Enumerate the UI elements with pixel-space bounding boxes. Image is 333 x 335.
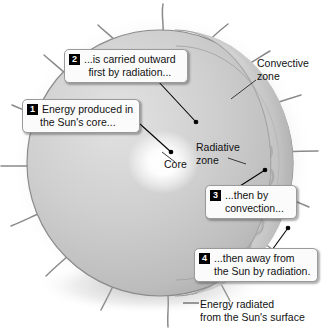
- convective-zone-label: Convective zone: [257, 57, 309, 83]
- convective-zone-line-2: zone: [257, 70, 309, 83]
- callout-line-2: convection...: [225, 202, 284, 215]
- callout-badge-1: 1: [27, 104, 38, 115]
- sun-core: [127, 130, 199, 194]
- callout-line-1: ...then away from: [214, 252, 310, 265]
- callout-badge-3: 3: [210, 190, 221, 201]
- energy-produced-callout[interactable]: 1 Energy produced in the Sun's core...: [22, 99, 140, 133]
- bottom-caption-line-2: from the Sun's surface: [200, 311, 305, 324]
- callout-text-3: ...then by convection...: [225, 189, 284, 215]
- callout-badge-4: 4: [199, 253, 210, 264]
- callout-text-2: ...is carried outward first by radiation…: [84, 53, 176, 79]
- callout-line-2: the Sun's core...: [40, 116, 133, 129]
- callout-text-4: ...then away from the Sun by radiation.: [214, 252, 310, 278]
- callout-line-2: the Sun by radiation.: [214, 265, 310, 278]
- away-by-radiation-callout[interactable]: 4 ...then away from the Sun by radiation…: [194, 248, 318, 282]
- convective-zone-line-1: Convective: [257, 57, 309, 70]
- radiative-zone-line-1: Radiative: [196, 141, 240, 154]
- callout-line-1: Energy produced in: [42, 103, 133, 116]
- callout-line-1: ...then by: [225, 189, 284, 202]
- callout-text-1: Energy produced in the Sun's core...: [42, 103, 133, 129]
- sun-energy-diagram: 1 Energy produced in the Sun's core... 2…: [0, 0, 333, 335]
- callout-line-2: first by radiation...: [84, 66, 176, 79]
- bottom-caption: Energy radiated from the Sun's surface: [200, 298, 305, 324]
- convection-callout[interactable]: 3 ...then by convection...: [205, 185, 297, 219]
- radiative-zone-label: Radiative zone: [196, 141, 240, 167]
- bottom-caption-line-1: Energy radiated: [200, 298, 305, 311]
- carried-outward-callout[interactable]: 2 ...is carried outward first by radiati…: [64, 49, 188, 83]
- radiative-zone-line-2: zone: [196, 154, 240, 167]
- core-label: Core: [164, 158, 187, 171]
- callout-badge-2: 2: [69, 54, 80, 65]
- callout-line-1: ...is carried outward: [84, 53, 176, 66]
